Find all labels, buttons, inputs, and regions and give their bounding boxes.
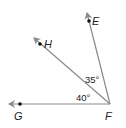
point-g <box>18 102 22 106</box>
point-e <box>87 19 91 23</box>
point-h <box>38 42 42 46</box>
label-e: E <box>92 15 100 27</box>
label-f: F <box>105 110 113 122</box>
angle-diagram: E H G F 35° 40° <box>0 0 126 128</box>
label-h: H <box>44 38 52 50</box>
angle-label-hfe: 35° <box>85 74 100 85</box>
angle-label-gfh: 40° <box>76 92 91 103</box>
label-g: G <box>14 110 23 122</box>
